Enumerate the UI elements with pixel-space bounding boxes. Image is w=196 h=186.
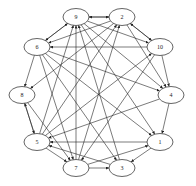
node-9: 9: [63, 9, 89, 26]
edge-4-to-5: [49, 99, 160, 138]
edge-6-to-9: [45, 24, 67, 41]
edge-2-to-8: [30, 24, 113, 89]
edge-10-to-2: [130, 24, 151, 41]
node-label: 8: [21, 92, 24, 98]
edge-4-to-1: [162, 103, 169, 133]
node-6: 6: [24, 39, 50, 56]
node-4: 4: [158, 87, 184, 104]
node-label: 9: [75, 14, 78, 20]
edge-6-to-8: [25, 55, 35, 86]
node-5: 5: [24, 134, 50, 151]
node-8: 8: [9, 87, 35, 104]
edge-2-to-4: [127, 25, 166, 87]
graph-canvas: 92104137586: [0, 0, 196, 186]
node-label: 7: [75, 165, 78, 171]
node-label: 2: [121, 14, 124, 20]
node-2: 2: [109, 9, 135, 26]
edge-5-to-8: [25, 103, 35, 133]
node-1: 1: [147, 134, 173, 151]
node-label: 6: [36, 44, 39, 50]
node-label: 5: [36, 139, 39, 145]
node-7: 7: [63, 160, 89, 177]
node-label: 10: [157, 44, 163, 50]
edge-9-to-4: [84, 24, 163, 89]
edge-6-to-4: [48, 51, 159, 91]
node-label: 3: [121, 165, 124, 171]
node-3: 3: [109, 160, 135, 177]
node-10: 10: [147, 39, 173, 56]
node-label: 4: [170, 92, 173, 98]
node-label: 1: [159, 139, 162, 145]
